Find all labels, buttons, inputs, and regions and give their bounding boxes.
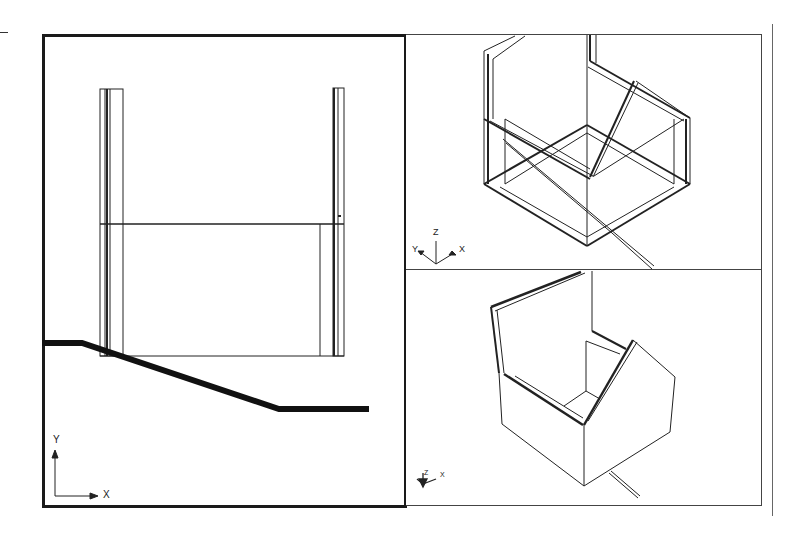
ucs-y-label: Y [53, 435, 60, 445]
viewport-isometric-hidden[interactable]: Z X [406, 269, 762, 506]
isometric-hidden-drawing [406, 270, 762, 507]
crosshair-fragment [0, 32, 8, 33]
viewport-isometric-wireframe[interactable]: Z Y X [406, 34, 762, 270]
ucs-z-label: Z [424, 468, 428, 478]
isometric-wireframe-drawing [406, 35, 762, 271]
ucs-icon-2d [52, 450, 98, 499]
right-edge-line [772, 24, 773, 516]
ucs-y-label: Y [412, 244, 418, 254]
viewport-plan[interactable]: Y X [42, 34, 407, 508]
ucs-x-label: X [459, 244, 465, 254]
ucs-x-label: X [103, 490, 110, 500]
ucs-icon-3d [418, 241, 456, 264]
plan-drawing [45, 37, 410, 511]
ucs-x-label: X [440, 470, 445, 480]
drawing-area[interactable]: Y X [0, 0, 801, 536]
ucs-z-label: Z [433, 227, 439, 237]
